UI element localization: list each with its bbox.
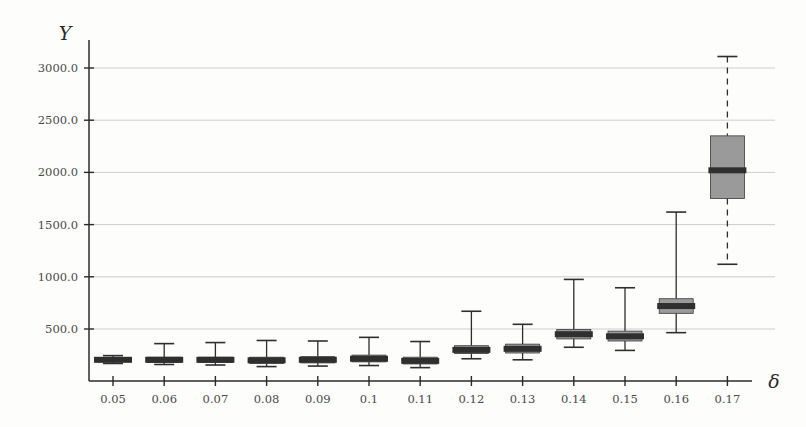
x-axis-title: δ [768, 370, 779, 392]
x-tick-label: 0.11 [407, 392, 433, 406]
x-tick-label: 0.12 [459, 392, 485, 406]
x-tick-label: 0.09 [305, 392, 331, 406]
boxplot-figure: 500.01000.01500.02000.02500.03000.0Yδ0.0… [0, 0, 806, 427]
y-tick-label: 1000.0 [38, 270, 78, 284]
median-bar [196, 357, 234, 363]
median-bar [248, 357, 286, 363]
median-bar [350, 356, 388, 362]
median-bar [401, 358, 439, 364]
x-tick-label: 0.06 [151, 392, 177, 406]
y-tick-label: 2500.0 [38, 113, 78, 127]
median-bar [145, 357, 183, 363]
x-tick-label: 0.08 [254, 392, 280, 406]
x-tick-label: 0.17 [715, 392, 741, 406]
x-tick-label: 0.15 [612, 392, 638, 406]
median-bar [94, 357, 132, 363]
median-bar [299, 357, 337, 363]
x-tick-label: 0.13 [510, 392, 536, 406]
y-tick-label: 3000.0 [38, 61, 78, 75]
box-body [710, 136, 744, 199]
median-bar [555, 331, 593, 337]
median-bar [452, 347, 490, 353]
y-axis-title: Y [59, 22, 74, 44]
median-bar [708, 167, 746, 173]
median-bar [606, 333, 644, 339]
median-bar [657, 303, 695, 309]
x-tick-label: 0.05 [100, 392, 126, 406]
median-bar [504, 346, 542, 352]
x-tick-label: 0.16 [663, 392, 689, 406]
y-tick-label: 500.0 [45, 322, 78, 336]
boxplot-canvas: 500.01000.01500.02000.02500.03000.0Yδ0.0… [0, 0, 806, 427]
x-tick-label: 0.07 [203, 392, 229, 406]
y-tick-label: 1500.0 [38, 218, 78, 232]
x-tick-label: 0.14 [561, 392, 587, 406]
x-tick-label: 0.1 [360, 392, 378, 406]
y-tick-label: 2000.0 [38, 165, 78, 179]
